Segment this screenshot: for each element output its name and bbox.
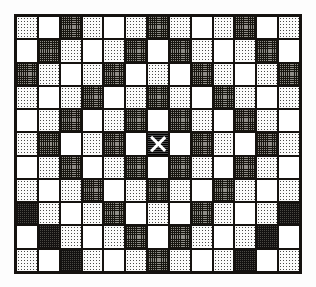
grid-cell <box>39 87 59 108</box>
grid-cell <box>126 180 146 201</box>
grid-cell <box>214 110 234 131</box>
grid-cell <box>279 40 299 61</box>
grid-cell <box>126 87 146 108</box>
grid-cell <box>83 180 103 201</box>
grid-cell <box>148 226 168 247</box>
grid-cell <box>61 17 81 38</box>
grid-cell <box>61 180 81 201</box>
grid-cell <box>170 203 190 224</box>
grid-cell <box>39 250 59 271</box>
grid-cell <box>61 250 81 271</box>
grid-cell <box>83 87 103 108</box>
grid-cell <box>214 17 234 38</box>
grid-cell <box>61 64 81 85</box>
grid-cell <box>214 133 234 154</box>
grid-cell <box>192 203 212 224</box>
grid-cell <box>126 226 146 247</box>
grid-cell <box>104 64 124 85</box>
grid-cell <box>170 133 190 154</box>
grid-cell <box>39 17 59 38</box>
grid-cell <box>235 40 255 61</box>
grid-cell <box>214 203 234 224</box>
grid-outer-frame <box>14 14 302 274</box>
grid-cell <box>148 40 168 61</box>
grid-cell <box>214 87 234 108</box>
grid-cell <box>235 250 255 271</box>
grid-cell <box>148 250 168 271</box>
grid-cell <box>257 64 277 85</box>
grid-cell <box>235 64 255 85</box>
grid-cell <box>257 17 277 38</box>
grid-cell <box>170 64 190 85</box>
grid-cell <box>235 133 255 154</box>
grid-cell <box>214 40 234 61</box>
grid-cell <box>61 203 81 224</box>
grid-cell <box>83 226 103 247</box>
grid-cell <box>83 133 103 154</box>
grid-cell <box>279 17 299 38</box>
grid-cell <box>83 40 103 61</box>
grid-cell <box>148 180 168 201</box>
grid-cell <box>235 226 255 247</box>
grid-cell <box>192 180 212 201</box>
grid-cell <box>17 180 37 201</box>
grid-cell <box>170 226 190 247</box>
grid-cell <box>257 133 277 154</box>
grid-cell <box>279 226 299 247</box>
grid-cell <box>170 250 190 271</box>
grid-cell <box>104 157 124 178</box>
grid-cell <box>104 203 124 224</box>
grid-cell <box>39 110 59 131</box>
grid-cell <box>17 226 37 247</box>
grid-cell <box>17 203 37 224</box>
grid-cell <box>61 133 81 154</box>
grid-cell <box>83 250 103 271</box>
grid-cell <box>235 157 255 178</box>
grid-cell <box>192 157 212 178</box>
grid-cell <box>126 110 146 131</box>
grid-cell <box>17 87 37 108</box>
grid-cell <box>104 87 124 108</box>
x-icon <box>150 135 166 152</box>
grid-cell <box>148 17 168 38</box>
grid-cell <box>104 110 124 131</box>
grid-cell <box>126 40 146 61</box>
grid-cell <box>83 110 103 131</box>
grid-cell <box>126 64 146 85</box>
grid-cell <box>192 226 212 247</box>
grid-cell <box>104 180 124 201</box>
grid-cell <box>192 133 212 154</box>
grid-cell <box>170 40 190 61</box>
grid-cell <box>214 250 234 271</box>
grid-cell <box>279 250 299 271</box>
grid-cell-marker <box>148 133 168 154</box>
grid-cell <box>104 226 124 247</box>
grid-cell <box>214 226 234 247</box>
grid-cell <box>83 203 103 224</box>
grid-cell <box>214 157 234 178</box>
grid-cell <box>61 110 81 131</box>
grid-cell <box>39 180 59 201</box>
grid-cell <box>126 157 146 178</box>
grid-cell <box>17 110 37 131</box>
grid-cell <box>39 203 59 224</box>
grid-cell <box>257 87 277 108</box>
grid-cell <box>279 110 299 131</box>
grid-cell <box>257 40 277 61</box>
grid-cell <box>61 157 81 178</box>
grid-cell <box>279 203 299 224</box>
grid-cell <box>17 157 37 178</box>
grid-cell <box>17 133 37 154</box>
grid-cell <box>148 110 168 131</box>
grid-cell <box>257 203 277 224</box>
grid-cell <box>148 157 168 178</box>
grid-cell <box>126 203 146 224</box>
grid-cell <box>83 157 103 178</box>
grid-cell <box>235 180 255 201</box>
grid-cell <box>257 180 277 201</box>
grid-pattern-figure <box>0 0 316 287</box>
grid-cell <box>39 40 59 61</box>
grid-cell <box>39 157 59 178</box>
grid-cell <box>192 250 212 271</box>
grid-cell <box>170 157 190 178</box>
